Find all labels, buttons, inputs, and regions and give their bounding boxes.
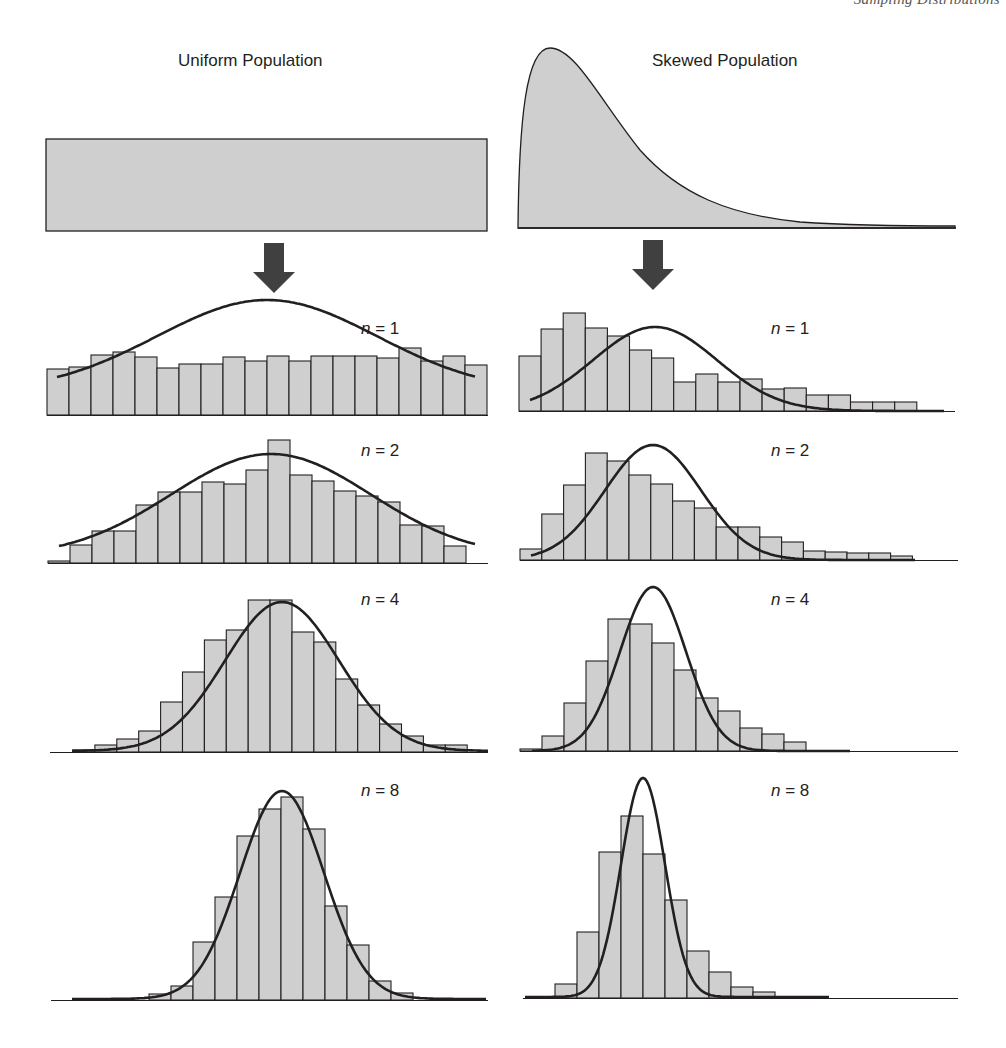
n-value: = 1 — [785, 319, 809, 338]
histogram-bar — [399, 348, 421, 415]
histogram-bar — [895, 402, 917, 411]
histogram-bar — [268, 440, 290, 563]
histogram-bar — [665, 900, 687, 998]
panel-label-uniform-n4: n = 4 — [361, 590, 399, 610]
histogram-bar — [444, 546, 466, 563]
histogram-bar — [465, 365, 487, 415]
histogram-bar — [585, 328, 607, 411]
n-variable: n — [771, 441, 780, 460]
histogram-bar — [443, 356, 465, 415]
histogram-panel — [523, 778, 958, 999]
panel-label-skewed-n2: n = 2 — [771, 441, 809, 461]
histogram-bar — [290, 475, 312, 563]
n-variable: n — [361, 590, 370, 609]
histogram-bar — [179, 364, 201, 415]
histogram-bar — [400, 525, 422, 563]
histogram-bar — [325, 906, 347, 1000]
n-variable: n — [771, 319, 780, 338]
histogram-bar — [204, 640, 226, 752]
histogram-bar — [586, 661, 608, 751]
histogram-bar — [629, 475, 651, 560]
histogram-bar — [312, 481, 334, 563]
histogram-bar — [696, 374, 718, 411]
histogram-bar — [281, 797, 303, 1000]
n-variable: n — [771, 590, 780, 609]
histogram-bar — [157, 368, 179, 415]
histogram-bar — [113, 352, 135, 415]
panel-label-skewed-n1: n = 1 — [771, 319, 809, 339]
histogram-bar — [718, 382, 740, 411]
histogram-bar — [201, 364, 223, 415]
histogram-bar — [314, 642, 336, 752]
n-value: = 1 — [375, 319, 399, 338]
panel-label-uniform-n1: n = 1 — [361, 319, 399, 339]
histogram-bar — [541, 329, 563, 411]
n-variable: n — [771, 781, 780, 800]
panel-label-uniform-n2: n = 2 — [361, 441, 399, 461]
histogram-panel — [519, 313, 955, 412]
histogram-panel — [51, 791, 488, 1001]
uniform-population-shape — [46, 139, 487, 231]
histogram-bar — [333, 356, 355, 415]
histogram-bar — [69, 367, 91, 415]
histogram-bar — [630, 624, 652, 751]
histogram-bar — [355, 356, 377, 415]
histogram-bar — [246, 470, 268, 563]
n-variable: n — [361, 319, 370, 338]
histogram-bar — [180, 492, 202, 563]
n-value: = 2 — [785, 441, 809, 460]
histogram-bar — [673, 501, 695, 560]
histogram-bar — [563, 313, 585, 411]
histogram-panel — [50, 600, 488, 753]
histogram-bar — [694, 508, 716, 560]
histogram-bar — [630, 350, 652, 411]
histogram-bar — [245, 361, 267, 415]
histogram-panel — [520, 587, 958, 751]
panel-label-uniform-n8: n = 8 — [361, 781, 399, 801]
histogram-bar — [237, 836, 259, 1000]
sampling-distribution-figure — [0, 0, 1006, 1048]
histogram-bar — [585, 453, 607, 560]
n-value: = 8 — [375, 781, 399, 800]
histogram-bar — [643, 854, 665, 998]
n-value: = 2 — [375, 441, 399, 460]
histogram-bar — [356, 496, 378, 563]
histogram-bar — [289, 361, 311, 415]
histogram-bar — [270, 600, 292, 752]
histogram-bar — [267, 356, 289, 415]
histogram-bar — [158, 492, 180, 563]
histogram-bar — [202, 482, 224, 563]
histogram-panel — [48, 440, 488, 564]
down-arrow-icon — [632, 240, 674, 290]
histogram-bar — [311, 356, 333, 415]
histogram-bar — [292, 632, 314, 752]
histogram-bar — [740, 379, 762, 411]
histogram-bar — [421, 361, 443, 415]
histogram-bar — [784, 742, 806, 751]
panel-label-skewed-n4: n = 4 — [771, 590, 809, 610]
histogram-bar — [135, 357, 157, 415]
histogram-bar — [651, 484, 673, 560]
histogram-bar — [303, 829, 325, 1000]
histogram-bar — [608, 619, 630, 751]
panel-label-skewed-n8: n = 8 — [771, 781, 809, 801]
histogram-bar — [564, 703, 586, 751]
histogram-bar — [336, 679, 358, 752]
histogram-bar — [183, 672, 205, 752]
n-variable: n — [361, 441, 370, 460]
n-value: = 8 — [785, 781, 809, 800]
histogram-bar — [652, 358, 674, 411]
histogram-bar — [784, 388, 806, 411]
histogram-bar — [224, 484, 246, 563]
histogram-panel — [520, 445, 958, 561]
histogram-bar — [226, 630, 248, 752]
down-arrow-icon — [253, 243, 295, 293]
histogram-bar — [652, 643, 674, 751]
histogram-bar — [377, 358, 399, 415]
n-variable: n — [361, 781, 370, 800]
n-value: = 4 — [375, 590, 399, 609]
histogram-bar — [70, 545, 92, 563]
histogram-bar — [607, 461, 629, 560]
skewed-population-shape — [518, 48, 955, 228]
histogram-bar — [259, 809, 281, 1000]
